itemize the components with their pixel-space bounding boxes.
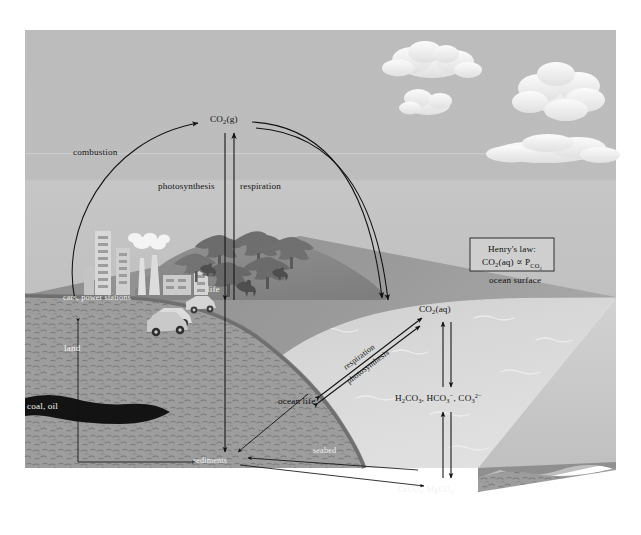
label-combustion: combustion <box>73 147 118 157</box>
label-coal-oil: coal, oil <box>27 401 58 411</box>
diagram-canvas: CO2(g) CO₂(g) combustion photosynthesis … <box>0 0 641 535</box>
label-cars-power-stations: cars, power stations <box>63 293 131 302</box>
label-land: land <box>64 343 81 353</box>
label-sediments: sediments <box>193 456 227 465</box>
henrys-law-title: Henry's law: <box>488 244 536 254</box>
label-respiration-land: respiration <box>240 181 281 191</box>
carbon-cycle-figure: CO2(g) CO₂(g) combustion photosynthesis … <box>0 0 641 535</box>
label-ocean-surface: ocean surface <box>489 275 541 285</box>
building-small-left <box>84 266 94 295</box>
label-photosynthesis-land: photosynthesis <box>158 181 215 191</box>
building-low-1 <box>163 275 191 295</box>
label-seabed: seabed <box>313 446 336 455</box>
label-ocean-life: ocean life <box>278 396 315 406</box>
henrys-law-box: Henry's law: CO2(aq) ∝ PCO2 <box>470 238 554 271</box>
label-life: life <box>207 284 220 294</box>
